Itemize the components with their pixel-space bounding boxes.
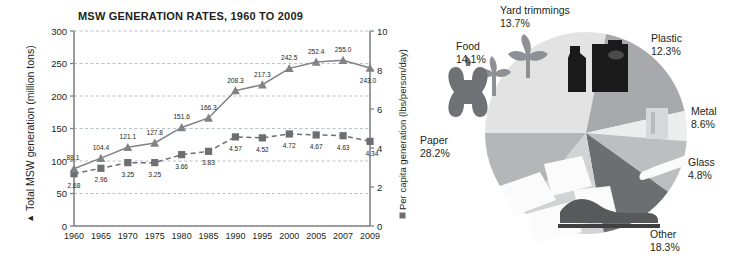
data-label-total-msw: 255.0 bbox=[335, 46, 352, 53]
y-axis-right-tick-label: 0 bbox=[377, 221, 382, 232]
pie-label-yard-trimmings: Yard trimmings 13.7% bbox=[500, 4, 570, 30]
x-axis-tick-label: 1960 bbox=[64, 231, 84, 241]
pie-label-metal: Metal 8.6% bbox=[691, 105, 717, 131]
line-plot-area: 0501001502002503000246810196019651970197… bbox=[0, 0, 420, 272]
data-point-per-capita bbox=[339, 132, 346, 139]
pie-label-yard-trimmings-name: Yard trimmings bbox=[500, 4, 570, 16]
x-axis-tick-label: 2000 bbox=[279, 231, 299, 241]
y-axis-left-tick-label: 300 bbox=[51, 26, 67, 37]
x-axis-tick-label: 1990 bbox=[225, 231, 245, 241]
x-axis-tick-label: 2009 bbox=[360, 231, 380, 241]
pie-label-food-pct: 14.1% bbox=[456, 53, 486, 66]
y-axis-left-tick-label: 150 bbox=[51, 123, 67, 134]
x-axis-tick-label: 2005 bbox=[306, 231, 326, 241]
pie-label-other: Other 18.3% bbox=[650, 228, 680, 254]
y-axis-left-tick-label: 0 bbox=[62, 221, 67, 232]
data-point-per-capita bbox=[232, 133, 239, 140]
data-label-per-capita: 3.25 bbox=[121, 171, 134, 178]
data-point-per-capita bbox=[124, 159, 131, 166]
metal-can-icon bbox=[646, 103, 668, 139]
data-label-total-msw: 252.4 bbox=[308, 48, 325, 55]
pie-label-yard-trimmings-pct: 13.7% bbox=[500, 17, 570, 30]
data-point-per-capita bbox=[259, 134, 266, 141]
msw-generation-line-chart: MSW GENERATION RATES, 1960 TO 2009 ▲ Tot… bbox=[0, 0, 420, 272]
data-label-per-capita: 4.34 bbox=[366, 150, 379, 157]
pie-label-paper-name: Paper bbox=[420, 134, 448, 146]
data-label-total-msw: 243.0 bbox=[360, 77, 377, 84]
pie-label-glass-name: Glass bbox=[688, 156, 715, 168]
data-point-per-capita bbox=[205, 148, 212, 155]
x-axis-tick-label: 1995 bbox=[252, 231, 272, 241]
pie-label-plastic-pct: 12.3% bbox=[651, 45, 682, 58]
data-point-per-capita bbox=[151, 159, 158, 166]
data-point-total-msw bbox=[150, 139, 159, 147]
data-label-per-capita: 3.25 bbox=[148, 171, 161, 178]
y-axis-left-tick-label: 50 bbox=[56, 188, 67, 199]
y-axis-left-tick-label: 100 bbox=[51, 156, 67, 167]
pie-label-other-name: Other bbox=[650, 228, 676, 240]
data-label-per-capita: 4.67 bbox=[310, 143, 323, 150]
data-label-total-msw: 242.5 bbox=[281, 54, 298, 61]
data-label-total-msw: 88.1 bbox=[67, 154, 80, 161]
data-point-total-msw bbox=[70, 164, 79, 172]
data-label-per-capita: 4.72 bbox=[283, 142, 296, 149]
pie-label-food: Food 14.1% bbox=[456, 40, 486, 66]
data-label-total-msw: 104.4 bbox=[93, 144, 110, 151]
pie-label-plastic: Plastic 12.3% bbox=[651, 32, 682, 58]
y-axis-left-tick-label: 250 bbox=[51, 58, 67, 69]
x-axis-tick-label: 1985 bbox=[199, 231, 219, 241]
data-label-total-msw: 121.1 bbox=[120, 133, 137, 140]
data-point-total-msw bbox=[97, 154, 106, 162]
data-point-per-capita bbox=[366, 138, 373, 145]
data-label-total-msw: 127.8 bbox=[146, 129, 163, 136]
pie-slice-paper bbox=[485, 32, 606, 133]
x-axis-tick-label: 1965 bbox=[91, 231, 111, 241]
data-label-per-capita: 4.52 bbox=[256, 146, 269, 153]
pie-label-glass: Glass 4.8% bbox=[688, 156, 715, 182]
y-axis-right-tick-label: 8 bbox=[377, 65, 382, 76]
msw-composition-pie-chart: Yard trimmings 13.7% Food 14.1% Paper 28… bbox=[420, 0, 751, 272]
series-line-total-msw bbox=[74, 60, 370, 168]
x-axis-tick-label: 1975 bbox=[145, 231, 165, 241]
pie-label-paper-pct: 28.2% bbox=[420, 147, 450, 160]
data-label-per-capita: 3.66 bbox=[175, 163, 188, 170]
pie-label-metal-pct: 8.6% bbox=[691, 118, 717, 131]
pie-label-other-pct: 18.3% bbox=[650, 241, 680, 254]
data-label-per-capita: 3.83 bbox=[202, 159, 215, 166]
data-point-per-capita bbox=[286, 130, 293, 137]
pie-label-plastic-name: Plastic bbox=[651, 32, 682, 44]
series-line-per-capita bbox=[74, 134, 370, 174]
y-axis-right-tick-label: 2 bbox=[377, 182, 382, 193]
x-axis-tick-label: 2007 bbox=[333, 231, 353, 241]
pie-label-food-name: Food bbox=[456, 40, 480, 52]
data-label-per-capita: 2.96 bbox=[94, 176, 107, 183]
data-label-per-capita: 4.57 bbox=[229, 145, 242, 152]
data-label-per-capita: 4.63 bbox=[337, 144, 350, 151]
data-point-total-msw bbox=[258, 80, 267, 88]
data-label-total-msw: 208.3 bbox=[227, 77, 244, 84]
data-point-per-capita bbox=[313, 131, 320, 138]
pie-label-metal-name: Metal bbox=[691, 105, 717, 117]
x-axis-tick-label: 1980 bbox=[172, 231, 192, 241]
y-axis-left-tick-label: 200 bbox=[51, 91, 67, 102]
data-label-per-capita: 2.68 bbox=[68, 182, 81, 189]
x-axis-tick-label: 1970 bbox=[118, 231, 138, 241]
data-label-total-msw: 151.6 bbox=[173, 113, 190, 120]
y-axis-right-tick-label: 6 bbox=[377, 104, 382, 115]
data-point-per-capita bbox=[178, 151, 185, 158]
data-point-per-capita bbox=[97, 165, 104, 172]
data-label-total-msw: 166.3 bbox=[200, 104, 217, 111]
pie-label-paper: Paper 28.2% bbox=[420, 134, 450, 160]
data-label-total-msw: 217.3 bbox=[254, 71, 271, 78]
y-axis-right-tick-label: 10 bbox=[377, 26, 388, 37]
plastic-bottles-icon bbox=[568, 40, 628, 92]
pie-label-glass-pct: 4.8% bbox=[688, 169, 715, 182]
